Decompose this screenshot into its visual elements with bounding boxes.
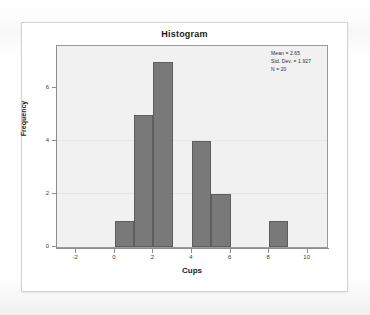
histogram-bar — [134, 115, 153, 247]
histogram-bar — [192, 141, 211, 247]
y-axis-tick — [52, 246, 56, 247]
chart-card: Histogram 0246 Frequency -20246810 Cups … — [21, 22, 348, 292]
x-axis-tick-label: -2 — [73, 254, 78, 260]
y-axis-tick-label: 4 — [33, 137, 49, 143]
x-axis-tick — [307, 249, 308, 253]
x-axis-tick — [114, 249, 115, 253]
plot-area — [57, 46, 327, 247]
x-axis-tick — [191, 249, 192, 253]
y-axis-tick — [52, 193, 56, 194]
x-axis-tick-label: 0 — [112, 254, 115, 260]
x-axis-tick-label: 6 — [228, 254, 231, 260]
histogram-bar — [115, 221, 134, 247]
y-axis-tick-label: 0 — [33, 243, 49, 249]
chart-title: Histogram — [22, 29, 347, 39]
x-axis-tick-label: 2 — [151, 254, 154, 260]
x-axis-tick-label: 8 — [266, 254, 269, 260]
histogram-bar — [153, 62, 172, 247]
histogram-bar — [211, 194, 230, 247]
x-axis-tick — [152, 249, 153, 253]
y-axis-tick-label: 6 — [33, 84, 49, 90]
y-axis-tick-label: 2 — [33, 190, 49, 196]
stat-std-dev: Std. Dev. = 1.927 — [271, 58, 311, 66]
x-axis-tick — [75, 249, 76, 253]
plot-frame — [56, 45, 328, 248]
stat-mean: Mean = 2.65 — [271, 50, 311, 58]
y-axis-tick — [52, 87, 56, 88]
histogram-bar — [269, 221, 288, 247]
y-axis-tick — [52, 140, 56, 141]
stat-n: N = 20 — [271, 66, 311, 74]
x-axis-tick-label: 10 — [303, 254, 310, 260]
y-axis-line — [56, 45, 57, 249]
statistics-annotation: Mean = 2.65 Std. Dev. = 1.927 N = 20 — [271, 50, 311, 73]
y-axis-title: Frequency — [20, 101, 27, 136]
x-axis-tick — [268, 249, 269, 253]
x-axis-title: Cups — [56, 266, 328, 275]
x-axis-tick — [230, 249, 231, 253]
x-axis-line — [56, 248, 329, 249]
x-axis-tick-label: 4 — [189, 254, 192, 260]
